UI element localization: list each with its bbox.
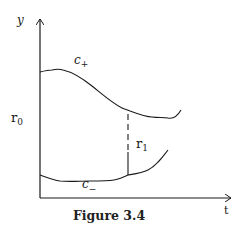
figure-3-4: y t r0 c+ c− r1 Figure 3.4 (0, 0, 243, 235)
c-plus-label: c+ (74, 53, 88, 69)
r0-label: r0 (11, 110, 23, 127)
y-axis-label: y (16, 13, 24, 27)
c-minus-curve (40, 150, 168, 181)
r1-label: r1 (136, 136, 148, 153)
c-minus-label: c− (82, 177, 96, 194)
c-plus-curve (40, 69, 181, 118)
x-axis-label: t (224, 204, 229, 217)
figure-caption: Figure 3.4 (73, 208, 145, 223)
